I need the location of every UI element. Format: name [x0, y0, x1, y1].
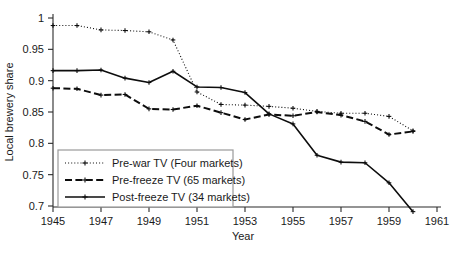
x-tick-label: 1949	[137, 215, 161, 227]
legend-label: Pre-freeze TV (65 markets)	[112, 174, 245, 186]
line-chart: 0.70.750.80.850.90.951 19451947194919511…	[0, 0, 457, 256]
x-axis-title: Year	[232, 230, 255, 242]
series-line	[53, 88, 413, 134]
x-tick-label: 1959	[377, 215, 401, 227]
x-tick-label: 1957	[329, 215, 353, 227]
series-line	[53, 26, 413, 131]
x-axis-tick-group: 194519471949195119531955195719591961	[41, 207, 449, 227]
series-1	[51, 23, 416, 133]
y-tick-label: 0.7	[29, 200, 44, 212]
x-tick-label: 1951	[185, 215, 209, 227]
series-2	[51, 86, 416, 137]
y-tick-label: 0.95	[23, 43, 44, 55]
chart-figure: 0.70.750.80.850.90.951 19451947194919511…	[0, 0, 457, 256]
chart-legend: Pre-war TV (Four markets)Pre-freeze TV (…	[58, 150, 250, 207]
x-tick-label: 1955	[281, 215, 305, 227]
legend-label: Post-freeze TV (34 markets)	[112, 191, 250, 203]
legend-label: Pre-war TV (Four markets)	[112, 157, 243, 169]
x-tick-label: 1953	[233, 215, 257, 227]
y-tick-label: 0.8	[29, 137, 44, 149]
x-tick-label: 1961	[425, 215, 449, 227]
y-tick-label: 0.75	[23, 169, 44, 181]
y-tick-label: 0.9	[29, 75, 44, 87]
y-tick-label: 1	[38, 12, 44, 24]
x-tick-label: 1945	[41, 215, 65, 227]
x-tick-label: 1947	[89, 215, 113, 227]
y-axis-title: Local brewery share	[3, 62, 15, 161]
y-axis-tick-group: 0.70.750.80.850.90.951	[23, 12, 53, 212]
y-tick-label: 0.85	[23, 106, 44, 118]
